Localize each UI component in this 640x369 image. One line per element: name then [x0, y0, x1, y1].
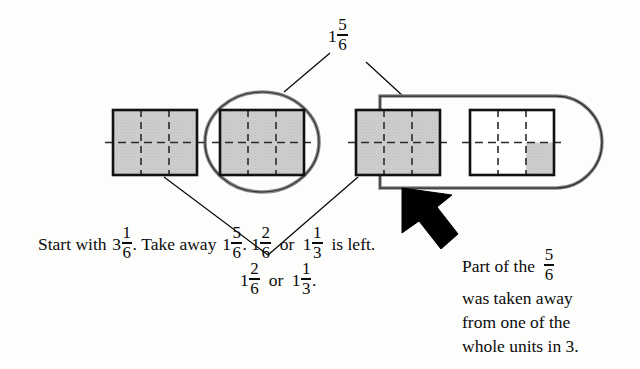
unit-4-rectangle — [462, 110, 562, 175]
remainder-whole-a: 1 — [240, 271, 249, 289]
remainder-numerator-b: 1 — [301, 261, 311, 278]
unit-4-shaded-sixth — [526, 143, 554, 176]
remainder-fraction-a: 2 6 — [249, 261, 260, 298]
take-away-numerator: 5 — [231, 225, 241, 242]
is-left-conjunction: or — [280, 235, 295, 253]
remainder-conjunction: or — [269, 271, 284, 289]
start-with-fraction: 1 6 — [122, 225, 133, 262]
unit-2-rectangle — [212, 110, 312, 175]
remainder-denominator-a: 6 — [249, 280, 259, 297]
start-with-whole: 3 — [112, 235, 121, 253]
explanation-right-block: Part of the 5 6 was taken away from one … — [462, 248, 638, 358]
top-numerator: 5 — [337, 17, 347, 34]
start-with-line: Start with 3 1 6 . — [38, 226, 137, 263]
part-of-the-line: Part of the 5 6 — [462, 248, 555, 285]
is-left-whole-b: 1 — [303, 235, 312, 253]
leader-line-top-left — [284, 53, 330, 92]
top-fraction-row: 1 5 6 — [328, 18, 348, 55]
explanation-left-block: Start with 3 1 6 . Take away 1 5 6 . 1 — [38, 214, 375, 263]
take-away-period: . — [242, 235, 246, 253]
start-with-text: Start with — [38, 235, 107, 253]
remainder-whole-b: 1 — [292, 271, 301, 289]
top-fraction-label: 1 5 6 — [328, 18, 348, 55]
callout-arrow-up-left — [402, 188, 458, 249]
part-of-the-text: Part of the — [462, 256, 535, 277]
was-taken-away-line: was taken away — [462, 288, 638, 309]
is-left-text: is left. — [331, 235, 375, 253]
is-left-fraction-a: 2 6 — [260, 225, 271, 262]
take-away-denominator: 6 — [231, 244, 241, 261]
take-away-fraction: 5 6 — [231, 225, 242, 262]
is-left-numerator-b: 1 — [312, 225, 322, 242]
remainder-label: 1 2 6 or 1 1 3 . — [240, 262, 316, 299]
is-left-whole-a: 1 — [251, 235, 260, 253]
top-fraction: 5 6 — [337, 17, 348, 54]
top-denominator: 6 — [337, 36, 347, 53]
is-left-denominator-b: 3 — [312, 244, 322, 261]
unit-1-rectangle — [105, 110, 205, 175]
figure-canvas: 1 5 6 Start with 3 1 6 . Take away 1 — [0, 0, 640, 369]
part-of-the-fraction: 5 6 — [544, 247, 555, 284]
remainder-period: . — [312, 271, 316, 289]
start-with-period: . — [133, 235, 137, 253]
whole-units-line: whole units in 3. — [462, 336, 638, 357]
start-with-denominator: 6 — [122, 244, 132, 261]
is-left-line: 1 2 6 or 1 1 3 is left. — [251, 226, 375, 263]
is-left-fraction-b: 1 3 — [312, 225, 323, 262]
leader-line-top-right — [366, 62, 403, 96]
remainder-fraction-b: 1 3 — [301, 261, 312, 298]
remainder-row: 1 2 6 or 1 1 3 . — [240, 262, 316, 299]
take-away-line: Take away 1 5 6 . — [141, 226, 246, 263]
part-of-the-denominator: 6 — [544, 266, 554, 283]
take-away-text: Take away — [141, 235, 216, 253]
top-whole: 1 — [328, 27, 337, 45]
take-away-whole: 1 — [222, 235, 231, 253]
is-left-numerator-a: 2 — [260, 225, 270, 242]
unit-3-rectangle — [348, 110, 448, 175]
remainder-denominator-b: 3 — [301, 280, 311, 297]
from-one-of-the-line: from one of the — [462, 312, 638, 333]
part-of-the-numerator: 5 — [544, 247, 554, 264]
is-left-denominator-a: 6 — [260, 244, 270, 261]
remainder-numerator-a: 2 — [249, 261, 259, 278]
start-with-numerator: 1 — [122, 225, 132, 242]
